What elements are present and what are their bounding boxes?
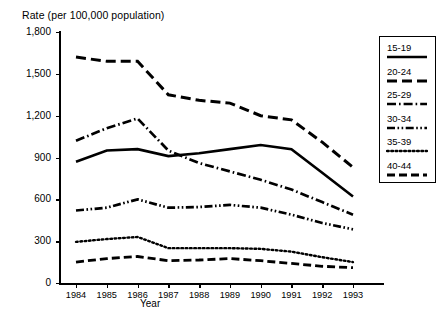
series-line-30-34 — [76, 199, 353, 229]
x-tick — [261, 283, 262, 288]
series-line-40-44 — [76, 257, 353, 268]
legend-swatch-dashed — [386, 79, 428, 83]
x-tick-label: 1988 — [189, 291, 209, 300]
x-tick — [138, 283, 139, 288]
x-tick-label: 1987 — [158, 291, 178, 300]
legend-item-40-44[interactable]: 40-44 — [386, 160, 431, 182]
x-tick-label: 1989 — [220, 291, 240, 300]
y-tick-label: 1,200 — [26, 111, 51, 121]
legend-swatch-long-dashed — [386, 173, 428, 177]
x-tick — [291, 283, 292, 288]
legend-item-30-34[interactable]: 30-34 — [386, 113, 431, 135]
x-tick-label: 1990 — [250, 291, 270, 300]
x-tick — [322, 283, 323, 288]
legend-label: 35-39 — [386, 136, 431, 147]
x-tick-label: 1985 — [97, 291, 117, 300]
legend-item-15-19[interactable]: 15-19 — [386, 42, 431, 64]
legend-swatch-dash-dot — [386, 102, 428, 106]
y-tick-label: 900 — [34, 153, 51, 163]
legend-label: 20-24 — [386, 66, 431, 77]
x-tick-label: 1992 — [312, 291, 332, 300]
series-layer — [60, 32, 377, 283]
x-tick — [199, 283, 200, 288]
legend-label: 30-34 — [386, 113, 431, 124]
x-tick — [76, 283, 77, 288]
x-axis-title-wrap: Year — [140, 298, 160, 309]
legend-swatch-dash-dot-dot — [386, 126, 428, 130]
legend-swatch-solid — [386, 55, 428, 59]
series-line-15-19 — [76, 145, 353, 197]
y-tick-label: 1,500 — [26, 69, 51, 79]
legend-swatch-dotted — [386, 149, 428, 153]
legend-item-20-24[interactable]: 20-24 — [386, 66, 431, 88]
y-tick-label: 600 — [34, 194, 51, 204]
legend-label: 15-19 — [386, 42, 431, 53]
x-axis-title: Year — [140, 298, 160, 309]
chart-root: Rate (per 100,000 population) 0300600900… — [0, 0, 445, 325]
y-tick-label: 1,800 — [26, 27, 51, 37]
x-tick — [168, 283, 169, 288]
legend-item-35-39[interactable]: 35-39 — [386, 136, 431, 158]
y-tick-label: 0 — [45, 278, 51, 288]
legend-label: 25-29 — [386, 89, 431, 100]
legend-label: 40-44 — [386, 160, 431, 171]
plot-area: 03006009001,2001,5001,800 19841985198619… — [60, 32, 377, 283]
x-tick-label: 1991 — [281, 291, 301, 300]
x-tick-label: 1993 — [343, 291, 363, 300]
legend: 15-1920-2425-2930-3435-3940-44 — [379, 36, 436, 183]
x-tick — [230, 283, 231, 288]
x-tick-label: 1984 — [66, 291, 86, 300]
y-axis-title: Rate (per 100,000 population) — [22, 9, 164, 21]
legend-item-25-29[interactable]: 25-29 — [386, 89, 431, 111]
x-tick — [107, 283, 108, 288]
y-tick-label: 300 — [34, 236, 51, 246]
y-tick: 0 — [56, 283, 60, 284]
x-tick — [353, 283, 354, 288]
